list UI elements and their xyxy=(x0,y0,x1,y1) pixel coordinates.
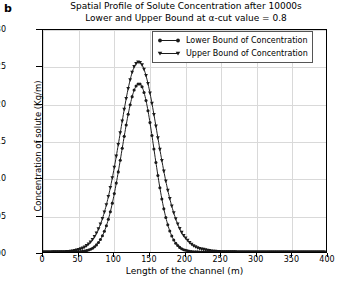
x-tick-mark xyxy=(220,253,221,257)
legend-item-lower: Lower Bound of Concentration xyxy=(156,34,308,47)
legend: Lower Bound of Concentration Upper Bound… xyxy=(152,31,313,63)
chart-title-line1: Spatial Profile of Solute Concentration … xyxy=(38,1,334,13)
x-tick-mark xyxy=(256,253,257,257)
y-tick-label: 0.015 xyxy=(0,137,6,146)
y-tick-label: 0.025 xyxy=(0,62,6,71)
x-tick-mark xyxy=(113,253,114,257)
y-tick-label: 0.000 xyxy=(0,249,6,258)
x-tick-mark xyxy=(185,253,186,257)
y-tick-label: 0.020 xyxy=(0,99,6,108)
panel-label: b xyxy=(4,3,12,14)
x-tick-mark xyxy=(78,253,79,257)
legend-marker-circle-icon xyxy=(156,35,182,46)
data-curves xyxy=(43,30,326,252)
x-tick-mark xyxy=(291,253,292,257)
legend-label-lower: Lower Bound of Concentration xyxy=(186,35,308,46)
legend-item-upper: Upper Bound of Concentration xyxy=(156,47,308,60)
legend-marker-triangle-icon xyxy=(156,48,182,59)
figure-container: b Spatial Profile of Solute Concentratio… xyxy=(0,0,339,282)
y-tick-label: 0.010 xyxy=(0,174,6,183)
x-tick-mark xyxy=(327,253,328,257)
series-upper-bound xyxy=(43,61,326,252)
y-axis-label: Concentration of solute (Kg/m) xyxy=(33,46,43,246)
y-tick-label: 0.005 xyxy=(0,211,6,220)
x-tick-mark xyxy=(149,253,150,257)
y-tick-label: 0.030 xyxy=(0,25,6,34)
chart-title-line2: Lower and Upper Bound at α-cut value = 0… xyxy=(38,13,334,25)
x-tick-mark xyxy=(42,253,43,257)
chart-title: Spatial Profile of Solute Concentration … xyxy=(38,1,334,24)
y-tick-mark xyxy=(36,29,42,30)
legend-label-upper: Upper Bound of Concentration xyxy=(186,48,308,59)
series-lower-bound xyxy=(43,82,326,252)
x-axis-label: Length of the channel (m) xyxy=(42,266,327,276)
